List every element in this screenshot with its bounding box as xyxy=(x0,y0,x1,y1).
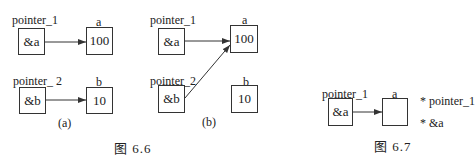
figure-6-7-caption: 图 6.7 xyxy=(374,140,412,153)
var-b-box: 10 xyxy=(86,87,113,114)
arrow-b-pointer2-to-a xyxy=(185,45,230,98)
pointer2-box: &b xyxy=(158,85,185,113)
figure-6-6-caption: 图 6.6 xyxy=(114,142,152,155)
var-a-box: 100 xyxy=(230,25,258,53)
pointer1-box: &a xyxy=(158,28,185,55)
panel-a-caption: (a) xyxy=(58,117,71,129)
var-a-box xyxy=(382,98,408,126)
pointer1-box: &a xyxy=(328,98,353,126)
pointer2-box: &b xyxy=(19,87,46,114)
pointer2-label: pointer_ 2 xyxy=(13,75,62,87)
note-deref-pointer1: * pointer_1 xyxy=(420,95,475,107)
note-deref-address-a: * &a xyxy=(420,117,444,129)
pointer1-label: pointer_1 xyxy=(150,14,196,26)
pointer1-box: &a xyxy=(18,28,45,55)
panel-b-caption: (b) xyxy=(202,116,216,128)
pointer1-label: pointer_1 xyxy=(12,14,58,26)
var-a-box: 100 xyxy=(86,27,113,55)
var-b-box: 10 xyxy=(231,85,258,113)
